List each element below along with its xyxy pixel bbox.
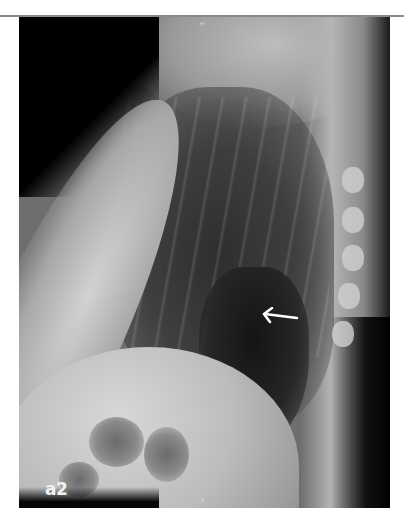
vertebra <box>332 321 354 347</box>
vertebra <box>342 167 364 193</box>
vertebra <box>342 207 364 233</box>
bowel-gas-shadow <box>144 427 189 482</box>
lower-edge-shadow <box>19 487 159 508</box>
orientation-marker-bottom: F <box>201 497 204 504</box>
orientation-marker-top: H <box>200 20 205 27</box>
vertebra <box>342 245 364 271</box>
panel-label: a2 <box>45 479 67 499</box>
arrow-left-icon <box>260 307 300 325</box>
vertebra <box>338 283 360 309</box>
bowel-gas-shadow <box>89 417 144 467</box>
lateral-chest-radiograph: H F a2 <box>19 17 390 508</box>
